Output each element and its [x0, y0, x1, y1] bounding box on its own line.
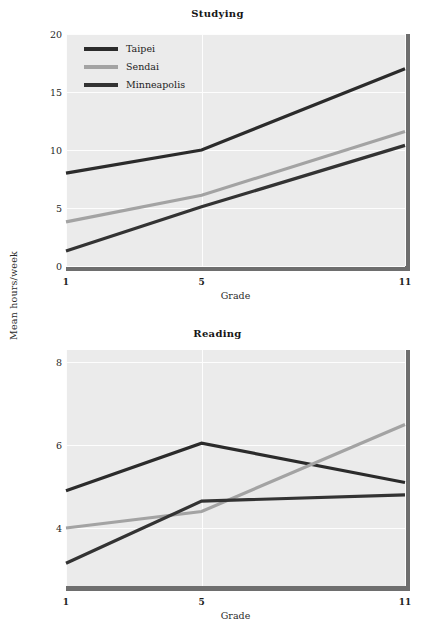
legend-item-label: Minneapolis [126, 80, 185, 90]
y-axis-ticks: 468 [22, 320, 62, 638]
gridline-vertical [405, 34, 406, 266]
y-axis-tick-label: 15 [26, 87, 62, 98]
chart-legend: TaipeiSendaiMinneapolis [84, 42, 185, 91]
y-axis-tick-label: 6 [26, 440, 62, 451]
legend-swatch-icon [84, 65, 118, 69]
y-axis-ticks: 05101520 [22, 0, 62, 318]
y-axis-tick-label: 4 [26, 523, 62, 534]
x-axis-label: Grade [66, 290, 405, 301]
x-axis-label: Grade [66, 610, 405, 621]
x-axis-tick-label: 1 [63, 277, 69, 287]
chart-panel-studying: Studying 05101520 1511 Grade TaipeiSenda… [0, 0, 435, 318]
gridline-horizontal [66, 266, 405, 267]
legend-item-label: Taipei [126, 44, 155, 54]
x-axis-tick-label: 11 [399, 597, 412, 607]
legend-item-label: Sendai [126, 62, 159, 72]
legend-swatch-icon [84, 83, 118, 87]
y-axis-tick-label: 8 [26, 357, 62, 368]
figure: Mean hours/week Studying 05101520 1511 G… [0, 0, 435, 638]
x-axis-tick-label: 11 [399, 277, 412, 287]
y-axis-tick-label: 0 [26, 261, 62, 272]
series-line-minneapolis [66, 495, 405, 563]
y-axis-tick-label: 10 [26, 145, 62, 156]
gridline-vertical [405, 350, 406, 586]
x-axis-tick-label: 5 [198, 277, 204, 287]
series-line-sendai [66, 131, 405, 221]
series-lines [66, 350, 405, 586]
legend-swatch-icon [84, 47, 118, 51]
series-line-taipei [66, 443, 405, 491]
legend-item-sendai[interactable]: Sendai [84, 60, 185, 73]
series-line-sendai [66, 425, 405, 529]
legend-item-minneapolis[interactable]: Minneapolis [84, 78, 185, 91]
plot-area [66, 350, 405, 586]
x-axis-tick-label: 1 [63, 597, 69, 607]
legend-item-taipei[interactable]: Taipei [84, 42, 185, 55]
y-axis-tick-label: 5 [26, 203, 62, 214]
chart-panel-reading: Reading 468 1511 Grade TaipeiSendaiMinne… [0, 320, 435, 638]
series-line-minneapolis [66, 145, 405, 251]
chart-title: Studying [0, 8, 435, 19]
y-axis-tick-label: 20 [26, 29, 62, 40]
x-axis-tick-label: 5 [198, 597, 204, 607]
chart-title: Reading [0, 328, 435, 339]
